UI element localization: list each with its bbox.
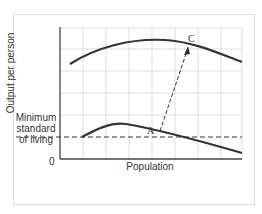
min-label-line-3: of living — [14, 134, 58, 145]
min-label-line-2: standard — [14, 123, 58, 134]
arrowhead-icon — [184, 46, 190, 55]
arrow-a-to-c — [160, 51, 187, 131]
min-label-line-1: Minimum — [14, 112, 58, 123]
chart-plot — [0, 0, 262, 214]
point-a-label: A — [147, 125, 154, 136]
upper-curve — [70, 40, 242, 64]
grid — [60, 28, 242, 159]
minimum-standard-label: Minimum standard of living — [14, 112, 58, 145]
x-axis-label: Population — [110, 161, 190, 172]
point-c-label: C — [188, 33, 195, 44]
origin-label: 0 — [49, 156, 55, 167]
